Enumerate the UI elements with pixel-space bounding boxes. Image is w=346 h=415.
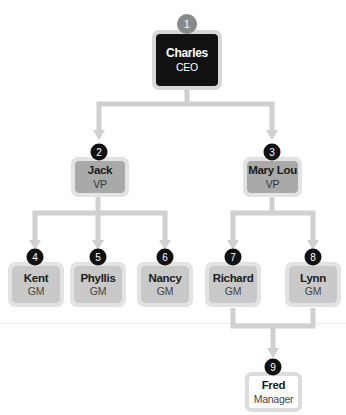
badge-8: 8 [305, 249, 322, 266]
node-title: GM [157, 285, 173, 298]
org-chart: 1 Charles CEO 2 Jack VP 3 Mary Lou VP 4 … [0, 0, 346, 415]
badge-3: 3 [264, 144, 281, 161]
node-kent-gm[interactable]: Kent GM [8, 262, 64, 307]
badge-4: 4 [27, 249, 44, 266]
node-name: Kent [24, 271, 48, 285]
badge-6: 6 [157, 249, 174, 266]
badge-5: 5 [90, 249, 107, 266]
node-title: VP [266, 178, 279, 191]
node-name: Mary Lou [248, 163, 297, 177]
connector-ceo-vps [99, 104, 272, 132]
node-title: CEO [176, 61, 198, 74]
node-richard-gm[interactable]: Richard GM [205, 262, 261, 307]
node-title: GM [225, 285, 241, 298]
node-title: GM [305, 285, 321, 298]
badge-7: 7 [225, 249, 242, 266]
node-name: Lynn [300, 271, 326, 285]
node-name: Fred [262, 378, 286, 392]
node-name: Phyllis [81, 271, 116, 285]
node-name: Nancy [148, 271, 181, 285]
node-charles-ceo[interactable]: Charles CEO [152, 30, 222, 90]
badge-1: 1 [177, 14, 197, 34]
node-title: VP [93, 178, 106, 191]
node-name: Charles [166, 46, 208, 61]
node-nancy-gm[interactable]: Nancy GM [137, 262, 193, 307]
connector-marylou-gms [233, 213, 313, 242]
node-title: GM [28, 285, 44, 298]
node-jack-vp[interactable]: Jack VP [71, 157, 129, 197]
node-lynn-gm[interactable]: Lynn GM [285, 262, 341, 307]
node-marylou-vp[interactable]: Mary Lou VP [243, 157, 302, 197]
connector-gms-fred [233, 308, 313, 326]
node-title: GM [90, 285, 106, 298]
node-fred-manager[interactable]: Fred Manager [245, 372, 302, 412]
node-name: Jack [88, 163, 112, 177]
badge-2: 2 [91, 144, 108, 161]
node-phyllis-gm[interactable]: Phyllis GM [70, 262, 126, 307]
node-title: Manager [254, 393, 293, 406]
node-name: Richard [213, 271, 254, 285]
badge-9: 9 [265, 359, 282, 376]
